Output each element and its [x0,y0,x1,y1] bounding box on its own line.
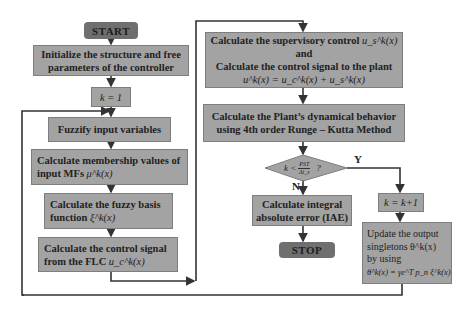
flc-signal-math: u_c^k(x) [109,256,145,267]
membership-box: Calculate membership values of input MFs… [31,149,188,185]
update-box: Update the output singletons θ^k(x) by u… [362,222,452,284]
flc-signal-line1: Calculate the control signal [44,242,167,255]
plant-line2: using 4th order Runge – Kutta Method [217,123,392,136]
supervisory-and: and [296,47,313,60]
membership-math: μ^k(x) [87,168,113,179]
update-equation: θ̇^k(x) = γe^T p_n ξ^k(x) [367,266,451,279]
plant-box: Calculate the Plant’s dynamical behavior… [203,104,405,142]
stop-terminal: STOP [279,242,335,258]
fuzzy-basis-line1: Calculate the fuzzy basis [50,198,161,211]
fuzzify-box: Fuzzify input variables [48,117,171,142]
k-init-label: k = 1 [100,91,122,104]
update-line2: singletons θ^k(x) [367,241,436,254]
no-label: N [292,180,300,192]
flc-signal-line2: from the FLC [44,256,106,267]
init-line2: parameters of the controller [48,61,174,74]
start-terminal: START [84,22,138,39]
update-line1: Update the output [367,228,439,241]
k-increment-box: k = k+1 [378,193,424,212]
decision-denominator: Δt_s [299,169,310,176]
update-line3: by using [367,253,401,266]
init-box: Initialize the structure and free parame… [33,45,189,76]
fuzzy-basis-math: ξ^k(x) [90,212,115,223]
iae-box: Calculate integral absolute error (IAE) [252,195,352,226]
plant-line1: Calculate the Plant’s dynamical behavior [212,110,397,123]
init-line1: Initialize the structure and free [41,48,181,61]
iae-line2: absolute error (IAE) [256,211,348,224]
stop-label: STOP [292,244,323,256]
supervisory-box: Calculate the supervisory control u_s^k(… [205,32,403,88]
fuzzy-basis-box: Calculate the fuzzy basis function ξ^k(x… [44,193,173,229]
membership-line1: Calculate membership values of [37,154,180,167]
control-equation: u^k(x) = u_c^k(x) + u_s^k(x) [243,73,365,86]
decision-text: k < PST Δt_s ? [284,160,321,176]
supervisory-line1: Calculate the supervisory control [211,35,360,46]
fuzzify-label: Fuzzify input variables [58,123,161,136]
decision-fraction: PST Δt_s [298,161,310,176]
supervisory-line3: Calculate the control signal to the plan… [216,60,393,73]
k-init-box: k = 1 [91,87,131,107]
supervisory-math: u_s^k(x) [362,35,397,46]
decision-numerator: PST [298,161,310,169]
start-label: START [92,25,130,37]
membership-line2: input MFs [37,168,84,179]
k-increment-label: k = k+1 [384,196,418,209]
iae-line1: Calculate integral [262,198,342,211]
flc-signal-box: Calculate the control signal from the FL… [38,237,178,272]
yes-label: Y [354,153,362,165]
fuzzy-basis-line2: function [50,212,87,223]
decision-lhs: k < [284,163,296,173]
decision-question: ? [316,163,321,173]
